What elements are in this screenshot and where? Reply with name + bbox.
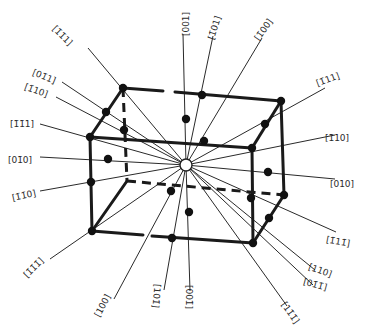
direction-label: [1̄1̄1] xyxy=(50,24,74,48)
lattice-point xyxy=(86,133,94,141)
lattice-point xyxy=(200,137,208,145)
lattice-point xyxy=(249,239,257,247)
direction-ray xyxy=(186,165,190,291)
direction-label: [1̄1̄1̄] xyxy=(22,256,46,280)
direction-label: [1̄1̄1] xyxy=(10,119,34,129)
lattice-point xyxy=(120,126,128,134)
direction-label: [01̄1] xyxy=(31,67,57,85)
direction-label: [100] xyxy=(92,293,112,319)
direction-label: [1̄11̄] xyxy=(325,234,351,248)
direction-ray xyxy=(186,135,335,165)
edge-back-right xyxy=(281,101,284,195)
lattice-point xyxy=(264,168,272,176)
direction-label: [1̄01] xyxy=(206,15,223,41)
lattice-point xyxy=(104,155,112,163)
lattice-point xyxy=(182,115,190,123)
direction-ray xyxy=(40,124,186,165)
direction-label: [1̄10] xyxy=(23,82,49,100)
lattice-point xyxy=(102,108,110,116)
direction-ray xyxy=(183,34,186,165)
direction-ray xyxy=(40,157,186,165)
lattice-point xyxy=(248,144,256,152)
edge-back-left-hidden xyxy=(123,88,127,181)
edge-front-bottom-a xyxy=(92,231,143,235)
direction-label: [001̄] xyxy=(184,285,194,309)
direction-label: [1̄00] xyxy=(253,17,275,43)
lattice-point xyxy=(167,187,175,195)
lattice-point xyxy=(119,84,127,92)
lattice-point xyxy=(265,214,273,222)
direction-ray xyxy=(186,165,335,179)
edge-back-top-b xyxy=(175,92,281,101)
lattice-point xyxy=(247,194,255,202)
center-point xyxy=(180,159,192,171)
lattice-point xyxy=(280,191,288,199)
lattice-point xyxy=(277,97,285,105)
direction-label: [110] xyxy=(307,262,333,280)
direction-label: [1̄11] xyxy=(315,71,341,89)
lattice-point xyxy=(88,227,96,235)
lattice-point xyxy=(261,120,269,128)
direction-label: [01̄1̄] xyxy=(302,277,328,293)
direction-ray xyxy=(88,48,186,165)
edge-left-bottom xyxy=(92,181,127,231)
direction-ray xyxy=(164,165,186,290)
lattice-point xyxy=(87,178,95,186)
direction-label: [01̄0] xyxy=(8,155,32,165)
direction-label: [11̄1̄] xyxy=(279,300,301,326)
direction-label: [1̄1̄0] xyxy=(11,188,37,203)
direction-label: [101̄] xyxy=(150,284,162,309)
direction-label: [1̄10] xyxy=(325,133,349,143)
edge-back-top xyxy=(123,88,163,91)
crystal-direction-diagram: [1̄1̄1][01̄1][1̄10][1̄1̄1][01̄0][1̄1̄0][… xyxy=(0,0,379,327)
lattice-point xyxy=(185,208,193,216)
direction-ray xyxy=(186,165,336,232)
direction-ray xyxy=(50,165,186,259)
direction-ray xyxy=(40,165,186,191)
direction-label: [010] xyxy=(330,179,354,189)
direction-ray xyxy=(186,165,313,285)
lattice-point xyxy=(198,91,206,99)
lattice-point xyxy=(168,234,176,242)
direction-label: [001] xyxy=(181,12,191,36)
